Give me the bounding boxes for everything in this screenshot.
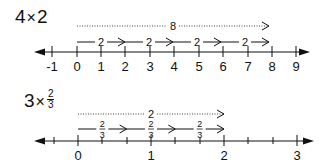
tick-label: 0 xyxy=(73,59,80,74)
tick-label: -1 xyxy=(46,59,58,74)
jump-fraction-numerator: 2 xyxy=(197,119,202,129)
tick-label: 5 xyxy=(195,59,202,74)
tick-label: 1 xyxy=(147,148,154,163)
tick-label: 1 xyxy=(97,59,104,74)
jump-fraction-denominator: 3 xyxy=(100,130,105,140)
jump-label: 2 xyxy=(98,36,104,48)
number-line-diagram: -101234567898222201232232323 xyxy=(0,0,328,168)
axis-right-arrow-icon xyxy=(303,138,314,145)
tick-label: 3 xyxy=(146,59,153,74)
tick-label: 9 xyxy=(292,59,299,74)
tick-label: 7 xyxy=(244,59,251,74)
total-label: 8 xyxy=(170,20,176,32)
jump-label: 2 xyxy=(194,36,200,48)
jump-fraction-numerator: 2 xyxy=(100,119,105,129)
tick-label: 8 xyxy=(268,59,275,74)
jump-label: 2 xyxy=(242,36,248,48)
jump-fraction-denominator: 3 xyxy=(148,130,153,140)
tick-label: 4 xyxy=(170,59,177,74)
jump-label: 2 xyxy=(146,36,152,48)
tick-label: 3 xyxy=(293,148,300,163)
axis-left-arrow-icon xyxy=(34,49,45,56)
jump-fraction-denominator: 3 xyxy=(197,130,202,140)
total-arrowhead-icon xyxy=(262,22,269,30)
tick-label: 2 xyxy=(121,59,128,74)
tick-label: 0 xyxy=(74,148,81,163)
tick-label: 2 xyxy=(220,148,227,163)
tick-label: 6 xyxy=(219,59,226,74)
jump-fraction-numerator: 2 xyxy=(148,119,153,129)
axis-right-arrow-icon xyxy=(299,49,310,56)
axis-left-arrow-icon xyxy=(34,138,45,145)
